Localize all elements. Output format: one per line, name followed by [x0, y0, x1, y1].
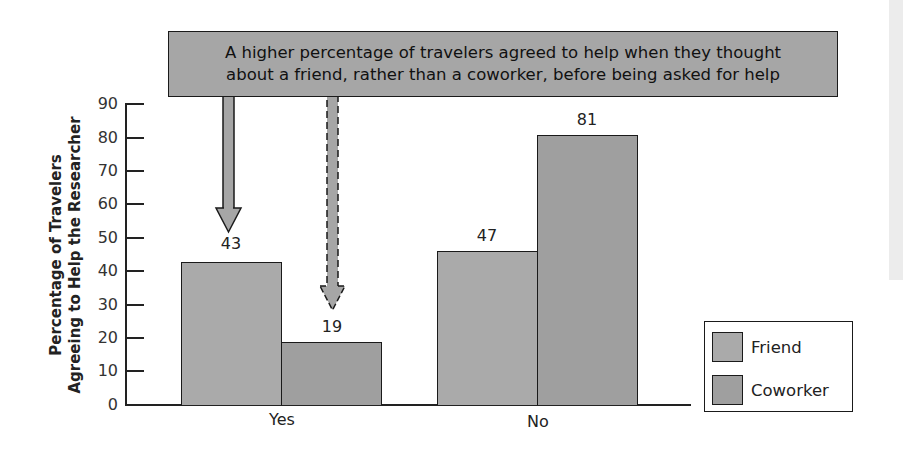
solid-arrow-icon — [216, 94, 241, 232]
annotation-callout: A higher percentage of travelers agreed … — [168, 31, 838, 97]
legend: Friend Coworker — [704, 321, 853, 412]
legend-swatch-friend — [712, 332, 743, 362]
legend-item-coworker: Coworker — [712, 375, 829, 405]
dashed-arrow-icon — [320, 94, 345, 310]
callout-line-2: about a friend, rather than a coworker, … — [225, 64, 781, 86]
legend-swatch-coworker — [712, 375, 743, 405]
legend-label-coworker: Coworker — [751, 381, 829, 400]
legend-label-friend: Friend — [751, 338, 802, 357]
legend-item-friend: Friend — [712, 332, 802, 362]
callout-line-1: A higher percentage of travelers agreed … — [225, 42, 781, 64]
